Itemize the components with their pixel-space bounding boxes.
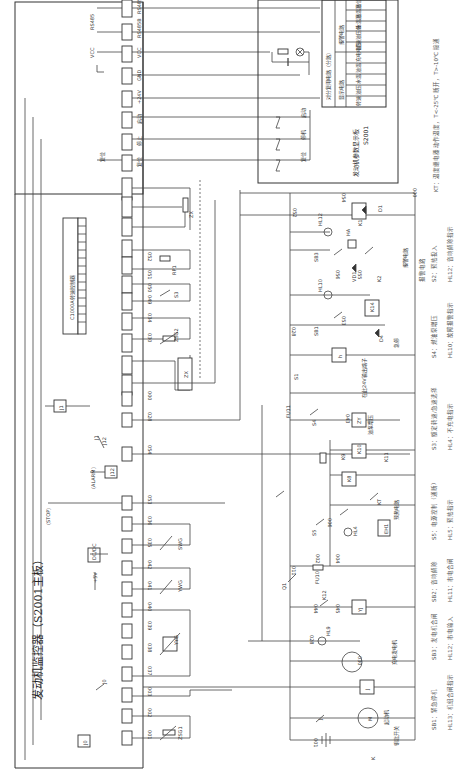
comp-s1: S1 — [293, 374, 299, 380]
schematic-canvas: 发动机监控器（S2001主板） RS485A RS485B VCC — [0, 0, 463, 772]
legend-hl12: HL12：音响解除指示 — [446, 226, 454, 282]
speed-controller-title: C1000A转速控制器 — [69, 275, 76, 320]
label-emergency-stop: 急停 — [393, 338, 400, 348]
speed-controller: C1000A转速控制器 — [63, 218, 86, 334]
contact-j1-label: J1 — [93, 435, 99, 441]
table-header-alarm: 报警电路 — [338, 25, 345, 45]
comp-hl4: HL4 — [352, 526, 358, 536]
ext-wire-004: 004 — [335, 554, 341, 564]
ext-wire-043: 043 — [345, 414, 351, 424]
legend-hl10: HL10：故障报警指示 — [446, 302, 454, 358]
reset-label: 复位 — [99, 152, 106, 162]
label-charger: 充电发电机 — [391, 640, 398, 665]
dcdc-label: DC/DC — [91, 543, 97, 560]
label-fuel-pump: 油泵增压 — [367, 415, 374, 435]
ext-wire-028b: 028 — [309, 635, 315, 645]
comp-k9: K9 — [340, 454, 346, 460]
legend-sb2: SB2：音响解除 — [430, 561, 438, 602]
sensor-zsg2-label: ZSG2 — [173, 328, 179, 342]
bx2-signal: 停止 — [136, 136, 143, 146]
legend-hl13: HL13：机组合闸指示 — [446, 674, 454, 730]
display-col-3: 油温 — [355, 63, 362, 73]
wire-052: 052 — [147, 252, 153, 262]
terminal-bx8 — [122, 0, 132, 17]
alarm-signal-label: （ALARM） — [90, 464, 96, 492]
comp-j-contact: J — [317, 719, 323, 721]
alarm-col-4: 油位低 — [355, 0, 362, 9]
bx-terminal-column — [122, 0, 132, 171]
comp-zy: ZY — [356, 417, 362, 424]
bx6-signal: VCC — [136, 47, 142, 58]
ext-wire-044: 044 — [313, 604, 319, 614]
ext-wire-028: 028 — [291, 327, 297, 337]
legend-hl5: HL5：预热指示 — [446, 499, 454, 540]
wire-054: 054 — [147, 445, 153, 455]
ext-wire-052: 052 — [292, 208, 298, 218]
comp-hl10: HL10 — [317, 279, 323, 292]
legend-sb1: SB1：紧急停机 — [430, 689, 438, 730]
wire-051: 051 — [147, 270, 153, 280]
display-panel-table: 对分复用电路（分路） 报警电路 显示电路 超速 油压低 水温高 油温高 油位低 … — [322, 0, 386, 107]
display-panel-model: S2001 — [362, 126, 369, 145]
comp-hl9: HL9 — [325, 626, 331, 636]
comp-k12: K12 — [321, 590, 327, 600]
comp-fu10: FU10 — [314, 571, 320, 584]
contact-j12-label: J12 — [101, 437, 107, 446]
wire-037: 037 — [147, 666, 153, 676]
comp-yj: YJ — [357, 607, 363, 613]
ext-wire-002: 002 — [315, 554, 321, 564]
label-preheat: 预热电路 — [393, 500, 400, 520]
external-power-circuit — [143, 193, 415, 747]
label-alarm-circuit: 报警电路 — [402, 248, 409, 268]
sensor-s3-label: S3 — [173, 292, 179, 298]
bx4-signal: +24V — [136, 89, 142, 104]
ext-wire-006: 006 — [327, 518, 333, 528]
rs485-label: RS485 — [89, 14, 95, 30]
table-header-mid: 对分复用电路（分路） — [325, 50, 332, 100]
ext-wire-000: 000 — [412, 188, 418, 198]
stop-signal-label: （STOP） — [45, 505, 51, 528]
sensor-loops — [132, 180, 410, 740]
comp-j-coil: J — [364, 689, 370, 691]
comp-hl12: HL12 — [317, 213, 323, 226]
ext-wire-001: 001 — [313, 738, 319, 748]
terminal-bx7 — [122, 24, 132, 40]
comp-k14: K14 — [369, 302, 375, 312]
wire-039: 039 — [147, 621, 153, 631]
bx1-signal: 复位 — [136, 157, 143, 167]
comp-ha: HA — [345, 228, 351, 236]
sensor-rp1-label: RP1 — [171, 265, 177, 275]
comp-sb1: SB1 — [313, 326, 319, 336]
comp-fu11: FU11 — [285, 405, 291, 418]
terminal-bx2 — [122, 134, 132, 150]
terminal-bx6 — [122, 46, 132, 62]
wire-050: 050 — [147, 283, 153, 293]
display-panel-title: 发动机参数显示板 — [352, 129, 360, 177]
label-key-switch: 钥匙开关 — [393, 726, 400, 746]
comp-s4: S4 — [311, 420, 317, 426]
wire-049: 049 — [147, 295, 153, 305]
plus5v-label: +5V — [92, 572, 98, 583]
comp-k10: K10 — [356, 444, 362, 454]
sensor-zx-label: ZX — [188, 211, 194, 218]
comp-key: K — [370, 756, 376, 760]
comp-sb3: SB3 — [313, 252, 319, 262]
ext-wire-045: 045 — [335, 604, 341, 614]
comp-q1: Q1 — [281, 583, 287, 590]
legend-alarm: 报警电路 — [418, 258, 426, 282]
ext-wire-056: 056 — [335, 270, 341, 280]
legend: KT：温度继电器 动作温度，T<-25℃ 断开，T>-10℃ 接通 报警电路 S… — [418, 38, 454, 730]
ax-terminal-column — [122, 178, 132, 745]
comp-k2: K2 — [376, 276, 382, 282]
legend-s4: S4：燃油泵增压 — [430, 315, 438, 358]
legend-s2: S2：预热投入 — [430, 245, 438, 282]
comp-h: h — [337, 355, 343, 358]
wire-000: 000 — [147, 391, 153, 401]
relay-j12-label: J12 — [109, 468, 115, 477]
sensor-zx2-label: ZX — [183, 371, 189, 378]
ext-wire-053: 053 — [341, 316, 347, 326]
display-col-4: 充电电压 — [355, 42, 362, 62]
comp-d1: D1 — [377, 205, 383, 212]
display-col-1: 油压 — [355, 85, 362, 95]
sensor-zsg1-label: ZSG1 — [177, 726, 183, 740]
